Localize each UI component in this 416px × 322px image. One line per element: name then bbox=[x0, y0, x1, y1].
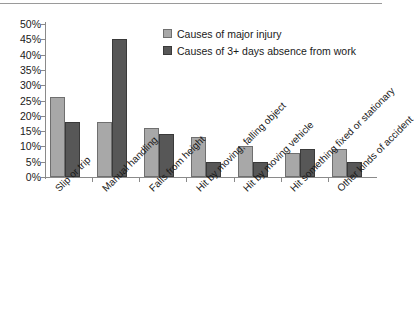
y-axis-tick-mark bbox=[41, 162, 45, 163]
y-axis-tick-label: 45% bbox=[20, 33, 41, 45]
y-axis-tick-mark bbox=[41, 85, 45, 86]
y-axis-tick-mark bbox=[41, 70, 45, 71]
y-axis-tick-mark bbox=[41, 55, 45, 56]
y-axis-tick-label: 40% bbox=[20, 49, 41, 61]
bar-absence bbox=[112, 39, 127, 177]
legend-item-major-injury: Causes of major injury bbox=[163, 26, 356, 41]
y-axis-tick-mark bbox=[41, 24, 45, 25]
legend-item-absence: Causes of 3+ days absence from work bbox=[163, 43, 356, 58]
y-axis-tick-mark bbox=[41, 101, 45, 102]
y-axis-tick-label: 0% bbox=[26, 171, 41, 183]
y-axis-tick-label: 25% bbox=[20, 95, 41, 107]
bar-major-injury bbox=[285, 153, 300, 177]
y-axis-tick-label: 5% bbox=[26, 156, 41, 168]
legend-label-major-injury: Causes of major injury bbox=[177, 28, 281, 40]
y-axis-tick-label: 35% bbox=[20, 64, 41, 76]
x-axis-tick-mark bbox=[281, 178, 282, 182]
x-axis-tick-mark bbox=[234, 178, 235, 182]
y-axis-tick-label: 15% bbox=[20, 125, 41, 137]
y-axis-tick-label: 50% bbox=[20, 18, 41, 30]
x-axis-tick-mark bbox=[92, 178, 93, 182]
y-axis-tick-label: 20% bbox=[20, 110, 41, 122]
bar-major-injury bbox=[97, 122, 112, 177]
x-axis-tick-mark bbox=[328, 178, 329, 182]
y-axis-tick-mark bbox=[41, 146, 45, 147]
bar-major-injury bbox=[50, 97, 65, 177]
y-axis-tick-mark bbox=[41, 177, 45, 178]
y-axis-tick-mark bbox=[41, 39, 45, 40]
y-axis-tick-mark bbox=[41, 116, 45, 117]
legend-swatch-icon-major-injury bbox=[163, 29, 172, 38]
x-axis-tick-mark bbox=[186, 178, 187, 182]
y-axis-tick-label: 30% bbox=[20, 79, 41, 91]
legend-swatch-icon-absence bbox=[163, 46, 172, 55]
y-axis-tick-labels: 50%45%40%35%30%25%20%15%10%5%0% bbox=[0, 0, 41, 322]
y-axis-tick-mark bbox=[41, 131, 45, 132]
chart-legend: Causes of major injury Causes of 3+ days… bbox=[163, 26, 356, 60]
header-divider bbox=[0, 3, 382, 4]
x-axis-tick-mark bbox=[139, 178, 140, 182]
y-axis-tick-label: 10% bbox=[20, 140, 41, 152]
legend-label-absence: Causes of 3+ days absence from work bbox=[177, 45, 356, 57]
